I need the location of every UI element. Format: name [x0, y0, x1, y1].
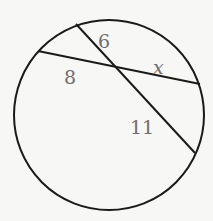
intersecting-chords-diagram: 6 8 x 11 [0, 0, 213, 221]
label-segment-8: 8 [64, 66, 76, 88]
chord-a [38, 51, 200, 84]
label-segment-x: x [153, 56, 164, 78]
label-segment-6: 6 [98, 30, 110, 52]
label-segment-11: 11 [130, 116, 154, 138]
